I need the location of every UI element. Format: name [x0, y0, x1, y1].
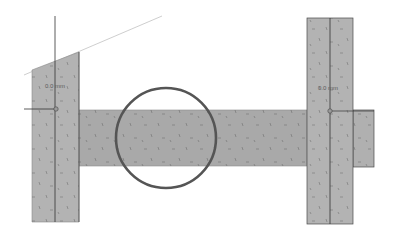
structural-section-drawing	[0, 0, 395, 238]
left-column[interactable]	[32, 52, 79, 222]
right-beam-stub[interactable]	[353, 110, 374, 167]
left-offset-label: 0.0 mm	[45, 83, 65, 89]
horizontal-beam[interactable]	[79, 110, 307, 166]
left-node-handle[interactable]	[54, 107, 58, 111]
right-offset-label: 0.0 mm	[318, 85, 338, 91]
right-node-handle[interactable]	[328, 109, 332, 113]
